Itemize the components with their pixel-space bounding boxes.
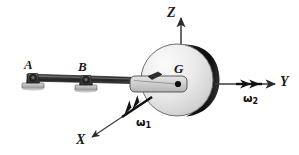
- bearing-b-pad: [76, 90, 97, 92]
- bearing-b-bore: [85, 78, 88, 81]
- bearing-b-label: B: [78, 60, 87, 73]
- omega1-subscript: 1: [146, 121, 152, 130]
- omega2-label: ω2: [243, 93, 258, 106]
- bearing-a-bore: [32, 76, 35, 79]
- bearing-b-base: [75, 85, 97, 90]
- omega2-subscript: 2: [253, 97, 259, 106]
- mass-center-dot: [175, 81, 181, 87]
- z-axis-label: Z: [167, 6, 176, 20]
- omega2-symbol: ω: [243, 92, 253, 105]
- x-axis-label: X: [76, 133, 85, 147]
- omega1-symbol: ω: [136, 116, 146, 129]
- bearing-a-base: [22, 83, 44, 88]
- bearing-a-pad: [23, 88, 44, 90]
- omega1-label: ω1: [136, 117, 151, 130]
- omega2-vector: [236, 79, 262, 88]
- mechanics-figure: A B G Z Y X ω2 ω1: [0, 0, 299, 155]
- bearing-a-label: A: [24, 58, 33, 71]
- mass-center-label: G: [174, 62, 183, 75]
- diagram-canvas: [0, 0, 299, 155]
- y-axis-label: Y: [280, 75, 289, 89]
